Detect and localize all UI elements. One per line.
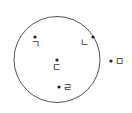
point-n: ㄴ — [80, 35, 95, 48]
point-g: ㄱ — [31, 35, 40, 50]
point-dot — [91, 35, 94, 38]
point-m: ㅁ — [109, 56, 124, 67]
point-d: ㄷ — [52, 58, 61, 73]
point-label: ㄷ — [52, 62, 61, 73]
point-label: ㄴ — [80, 37, 89, 48]
point-label: ㅁ — [115, 56, 124, 67]
point-dot — [109, 59, 112, 62]
circle-diagram: ㄱ ㄴ ㄷ ㄹ ㅁ — [0, 0, 132, 113]
point-label: ㄹ — [63, 82, 72, 93]
point-dot — [57, 85, 60, 88]
point-r: ㄹ — [57, 82, 72, 93]
point-label: ㄱ — [31, 39, 40, 50]
